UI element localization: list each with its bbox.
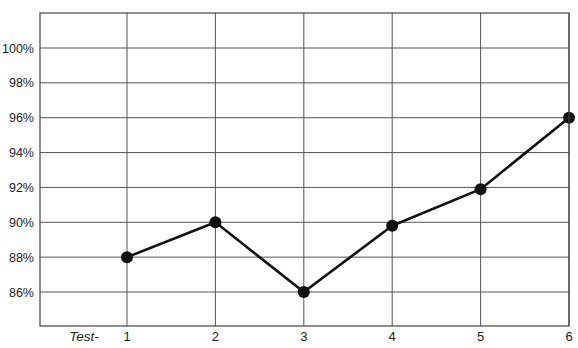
plot-frame <box>40 13 569 326</box>
y-tick-label: 94% <box>9 146 34 160</box>
x-tick-label: 6 <box>565 329 572 344</box>
data-point-marker <box>298 286 310 298</box>
x-tick-label: 2 <box>212 329 219 344</box>
y-tick-label: 92% <box>9 181 34 195</box>
y-tick-label: 86% <box>9 286 34 300</box>
data-point-marker <box>209 216 221 228</box>
grid <box>40 13 569 326</box>
y-tick-label: 100% <box>2 42 34 56</box>
y-tick-label: 96% <box>9 111 34 125</box>
series-line <box>127 118 569 292</box>
data-point-marker <box>121 251 133 263</box>
y-tick-label: 90% <box>9 216 34 230</box>
line-chart: 86%88%90%92%94%96%98%100% Test- 123456 <box>0 0 578 348</box>
x-tick-label: 3 <box>300 329 307 344</box>
x-axis-label: Test- <box>69 329 99 344</box>
y-axis: 86%88%90%92%94%96%98%100% <box>2 42 34 300</box>
x-axis: Test- 123456 <box>69 329 572 344</box>
data-point-marker <box>475 183 487 195</box>
x-tick-label: 1 <box>123 329 130 344</box>
x-tick-label: 5 <box>477 329 484 344</box>
data-point-marker <box>386 220 398 232</box>
y-tick-label: 88% <box>9 251 34 265</box>
data-series <box>121 112 575 298</box>
y-tick-label: 98% <box>9 76 34 90</box>
x-tick-label: 4 <box>389 329 396 344</box>
